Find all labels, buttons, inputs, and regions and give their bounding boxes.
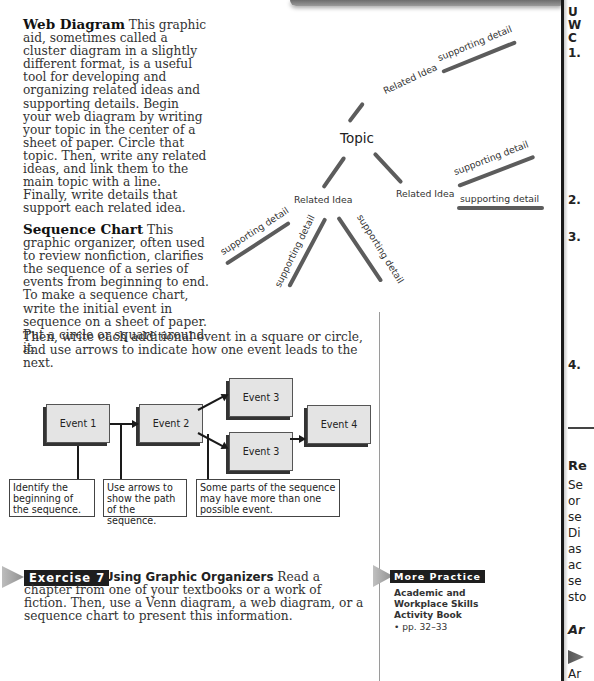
rc-rule [568, 427, 594, 429]
rc-line: se [568, 574, 582, 588]
related-idea-upper: Related Idea [381, 61, 439, 96]
rc-line: Di [568, 526, 581, 540]
event-box: Event 3 [229, 378, 293, 417]
more-practice-title-line: Workplace Skills [394, 599, 494, 610]
rc-line: sto [568, 590, 586, 604]
event-box: Event 3 [229, 432, 293, 471]
sequence-chart-paragraph-tail: Then, write each additional event in a s… [23, 331, 363, 370]
rc-line: as [568, 542, 582, 556]
callout-note: Identify the beginning of the sequence. [9, 479, 95, 517]
more-practice-label: More Practice [390, 570, 485, 583]
more-practice-pages: • pp. 32–33 [394, 622, 447, 632]
rc-italic-heading: Ar [568, 622, 584, 637]
rc-line: se [568, 510, 582, 524]
callout-leader [207, 434, 209, 479]
related-idea-left: Related Idea [294, 194, 352, 205]
web-diagram-heading: Web Diagram [23, 16, 125, 32]
supporting-detail: supporting detail [460, 193, 539, 204]
rc-heading-line: U [568, 5, 578, 19]
rc-line: ac [568, 558, 582, 572]
rc-number: 1. [568, 46, 581, 60]
arrow-head-icon [132, 420, 139, 428]
callout-note: Some parts of the sequence may have more… [196, 479, 340, 517]
page-top-shadow [290, 0, 562, 6]
web-topic: Topic [340, 130, 374, 146]
rc-number: 4. [568, 358, 581, 372]
rc-flag-icon [568, 650, 584, 664]
rc-heading-line: W [568, 18, 581, 32]
exercise-paragraph: Using Graphic Organizers Read a chapter … [24, 571, 364, 623]
rc-heading-line: C [568, 31, 577, 45]
web-link [457, 206, 544, 210]
rc-number: 3. [568, 230, 581, 244]
rc-section-heading: Re [568, 458, 587, 473]
callout-leader [77, 446, 79, 479]
web-diagram-body: This graphic aid, sometimes called a clu… [23, 18, 206, 215]
rc-line: Se [568, 478, 583, 492]
sequence-chart-heading: Sequence Chart [23, 221, 143, 237]
web-diagram-paragraph: Web Diagram This graphic aid, sometimes … [23, 18, 209, 215]
arrow-head-icon [299, 435, 306, 443]
related-idea-right: Related Idea [396, 188, 454, 199]
more-practice-title-line: Academic and [394, 588, 494, 599]
more-practice-title-line: Activity Book [394, 610, 494, 621]
event-box: Event 1 [46, 404, 110, 443]
event-box: Event 2 [139, 404, 203, 443]
supporting-detail: supporting detail [355, 212, 406, 285]
exercise-flag-icon [2, 566, 24, 588]
rc-number: 2. [568, 193, 581, 207]
web-link [321, 156, 346, 189]
web-link [373, 152, 404, 185]
exercise-title: Using Graphic Organizers [104, 570, 273, 584]
sidebar-rule [379, 312, 380, 681]
callout-note: Use arrows to show the path of the seque… [103, 479, 187, 517]
callout-leader [120, 423, 122, 479]
more-practice-body: Academic and Workplace Skills Activity B… [394, 588, 494, 633]
event-box: Event 4 [307, 405, 371, 444]
web-link [347, 102, 365, 124]
rc-line: or [568, 494, 580, 508]
rc-line: Ar [568, 667, 581, 681]
